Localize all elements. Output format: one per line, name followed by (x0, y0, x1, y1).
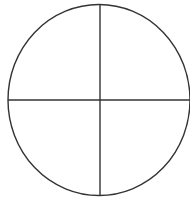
quadrant-circle-diagram (0, 0, 190, 199)
diagram-canvas (0, 0, 190, 199)
